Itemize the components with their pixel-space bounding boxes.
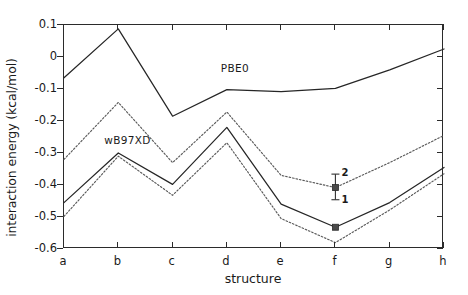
series-line-0 (64, 29, 444, 116)
y-tick-right-3 (437, 120, 443, 121)
x-tick-top-d (226, 24, 227, 30)
x-tick-top-e (280, 24, 281, 30)
y-tick-label-4: -0.3 (21, 145, 57, 159)
x-tick-c (172, 242, 173, 248)
series-label-wb97xd: wB97XD (104, 134, 150, 146)
y-tick-right-7 (437, 248, 443, 249)
x-tick-top-g (389, 24, 390, 30)
y-tick-6 (57, 216, 63, 217)
x-tick-d (226, 242, 227, 248)
error-bar-2 (331, 174, 339, 200)
interaction-energy-chart: interaction energy (kcal/mol) structure … (0, 0, 468, 295)
y-tick-right-4 (437, 152, 443, 153)
x-tick-label-c: c (160, 254, 184, 268)
y-tick-label-3: -0.2 (21, 113, 57, 127)
x-tick-label-d: d (214, 254, 238, 268)
y-tick-2 (57, 88, 63, 89)
y-tick-right-6 (437, 216, 443, 217)
x-tick-f (334, 242, 335, 248)
y-tick-label-1: 0 (21, 49, 57, 63)
x-tick-b (117, 242, 118, 248)
y-tick-label-7: -0.6 (21, 241, 57, 255)
x-axis-title: structure (63, 271, 443, 286)
series-label-pbe0: PBE0 (221, 62, 249, 74)
x-tick-label-h: h (431, 254, 455, 268)
x-tick-g (389, 242, 390, 248)
x-tick-a (63, 242, 64, 248)
x-tick-top-h (443, 24, 444, 30)
error-bar-1-marker (332, 224, 338, 230)
y-tick-label-2: -0.1 (21, 81, 57, 95)
y-tick-label-6: -0.5 (21, 209, 57, 223)
y-tick-right-2 (437, 88, 443, 89)
y-tick-right-1 (437, 56, 443, 57)
annotation-label-2: 2 (341, 167, 348, 178)
x-tick-label-g: g (377, 254, 401, 268)
x-tick-label-f: f (322, 254, 346, 268)
error-bar-2-marker (332, 185, 338, 191)
x-tick-e (280, 242, 281, 248)
error-bar-1 (332, 224, 338, 230)
x-tick-top-f (334, 24, 335, 30)
y-tick-7 (57, 248, 63, 249)
series-line-3 (64, 143, 444, 243)
y-tick-5 (57, 184, 63, 185)
y-tick-3 (57, 120, 63, 121)
x-tick-top-c (172, 24, 173, 30)
x-tick-top-b (117, 24, 118, 30)
x-tick-label-b: b (105, 254, 129, 268)
y-axis-title: interaction energy (kcal/mol) (0, 0, 22, 295)
y-tick-label-5: -0.4 (21, 177, 57, 191)
x-tick-top-a (63, 24, 64, 30)
y-tick-4 (57, 152, 63, 153)
y-tick-right-5 (437, 184, 443, 185)
x-tick-h (443, 242, 444, 248)
y-tick-label-0: 0.1 (21, 17, 57, 31)
y-tick-1 (57, 56, 63, 57)
annotation-label-1: 1 (341, 194, 348, 205)
x-tick-label-e: e (268, 254, 292, 268)
x-tick-label-a: a (51, 254, 75, 268)
